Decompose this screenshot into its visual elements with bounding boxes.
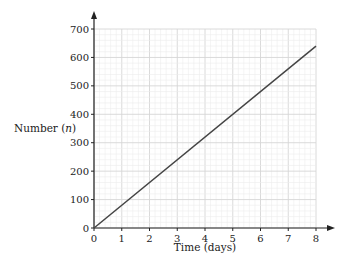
- y-tick-label: 100: [70, 194, 89, 205]
- y-tick-label: 600: [70, 52, 89, 63]
- y-tick-label: 500: [70, 80, 89, 91]
- grid: [94, 29, 316, 228]
- line-chart: 0123456780100200300400500600700 Time (da…: [0, 0, 344, 266]
- x-tick-label: 6: [257, 233, 263, 244]
- y-tick-label: 0: [83, 223, 89, 234]
- y-tick-label: 300: [70, 137, 89, 148]
- x-tick-label: 7: [285, 233, 291, 244]
- y-tick-label: 400: [70, 109, 89, 120]
- x-tick-label: 1: [119, 233, 125, 244]
- x-tick-label: 2: [146, 233, 152, 244]
- y-tick-label: 200: [70, 166, 89, 177]
- x-axis-label: Time (days): [174, 241, 236, 253]
- x-tick-label: 0: [91, 233, 97, 244]
- y-axis-label-text: Number (: [14, 122, 65, 134]
- y-axis-label: Number (n): [14, 122, 76, 134]
- y-axis-label-close: ): [72, 122, 76, 134]
- x-tick-label: 8: [313, 233, 319, 244]
- y-tick-label: 700: [70, 24, 89, 35]
